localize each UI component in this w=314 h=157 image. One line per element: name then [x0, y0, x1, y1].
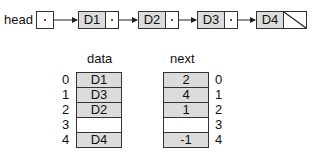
pointer-dot-icon	[171, 19, 173, 21]
next-cell-0: 2	[163, 72, 209, 88]
next-index-2: 2	[215, 102, 222, 117]
data-cell-0: D1	[76, 72, 122, 88]
pointer-dot-icon	[111, 19, 113, 21]
data-cell-2: D2	[76, 102, 122, 118]
next-index-1: 1	[215, 87, 222, 102]
next-index-0: 0	[215, 72, 222, 87]
node-next-d1	[105, 11, 119, 29]
data-array-title: data	[87, 51, 112, 67]
next-index-4: 4	[215, 132, 222, 147]
data-cell-3	[76, 117, 122, 133]
node-data-d2: D2	[138, 11, 166, 29]
next-cell-2: 1	[163, 102, 209, 118]
head-label: head	[4, 12, 33, 28]
data-index-3: 3	[62, 117, 69, 132]
next-cell-3	[163, 117, 209, 133]
data-index-4: 4	[62, 132, 69, 147]
head-pointer-box	[36, 11, 54, 29]
data-index-1: 1	[62, 87, 69, 102]
next-cell-1: 4	[163, 87, 209, 103]
next-array-title: next	[170, 51, 195, 67]
node-next-d2	[165, 11, 179, 29]
node-data-d3: D3	[197, 11, 225, 29]
data-index-0: 0	[62, 72, 69, 87]
data-index-2: 2	[62, 102, 69, 117]
data-cell-4: D4	[76, 132, 122, 148]
node-data-d4: D4	[256, 11, 284, 29]
node-next-d3	[224, 11, 238, 29]
next-cell-4: -1	[163, 132, 209, 148]
pointer-dot-icon	[44, 19, 46, 21]
null-slash-icon	[284, 12, 307, 29]
node-data-d1: D1	[78, 11, 106, 29]
data-cell-1: D3	[76, 87, 122, 103]
next-index-3: 3	[215, 117, 222, 132]
node-next-d4-null	[283, 11, 307, 29]
pointer-dot-icon	[230, 19, 232, 21]
